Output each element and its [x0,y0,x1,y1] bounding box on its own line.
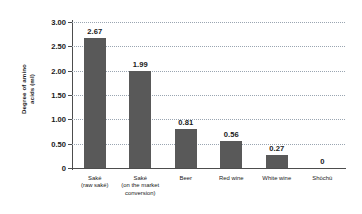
x-axis-category-label-line: conversion) [110,190,170,197]
y-axis-tick-mark [68,46,72,47]
bar-value-label: 2.67 [87,27,102,36]
y-axis-tick-labels: 3.002.502.001.501.000.500 [18,0,66,214]
bar[interactable] [175,129,197,168]
y-axis-tick-mark [68,119,72,120]
bar-slot: 1.99 [118,22,164,168]
y-axis-tick-label: 1.00 [20,115,66,124]
y-axis-tick-mark [68,144,72,145]
bar-value-label: 0 [320,157,324,166]
x-axis-category-label-line: (on the market [110,182,170,189]
bar-slot: 0.81 [163,22,209,168]
bar-value-label: 0.56 [224,130,239,139]
bar-value-label: 0.81 [178,118,193,127]
bar-slot: 0 [300,22,346,168]
y-axis-tick-label: 0.50 [20,139,66,148]
y-axis-tick-mark [68,168,72,169]
bar[interactable] [220,141,242,168]
bar[interactable] [84,38,106,168]
y-axis-tick-label: 0 [20,164,66,173]
plot-area: 2.671.990.810.560.270 [72,22,345,168]
bar-chart: Degree of amino acids (ml) 3.002.502.001… [0,0,362,214]
x-axis-line [72,168,346,169]
bar-slot: 2.67 [72,22,118,168]
y-axis-tick-mark [68,22,72,23]
x-axis-category-label: Shōchū [292,175,352,182]
bar[interactable] [266,155,288,168]
y-axis-tick-mark [68,71,72,72]
x-axis-category-labels: Saké(raw saké)Saké(on the marketconversi… [72,175,345,213]
y-axis-tick-label: 1.50 [20,91,66,100]
y-axis-tick-mark [68,95,72,96]
bar-slot: 0.56 [209,22,255,168]
bar-value-label: 0.27 [269,144,284,153]
y-axis-tick-label: 2.50 [20,42,66,51]
bar-value-label: 1.99 [133,60,148,69]
bar-slot: 0.27 [254,22,300,168]
y-axis-tick-label: 3.00 [20,18,66,27]
bar[interactable] [129,71,151,168]
y-axis-tick-label: 2.00 [20,66,66,75]
x-axis-category-label-line: Shōchū [292,175,352,182]
